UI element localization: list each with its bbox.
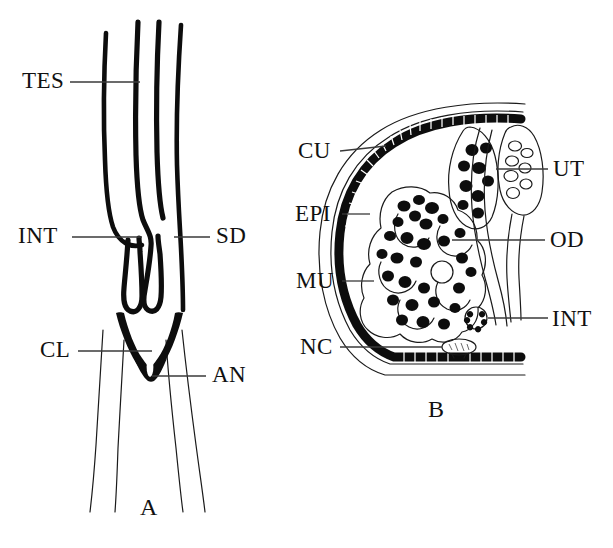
figure-root: TES INT SD CL AN xyxy=(0,0,613,548)
label-sd: SD xyxy=(216,223,246,248)
label-ut: UT xyxy=(553,156,585,181)
label-epi: EPI xyxy=(295,201,331,226)
label-cl: CL xyxy=(40,337,70,362)
panel-a-anus-opening xyxy=(147,357,154,377)
label-int-b: INT xyxy=(552,306,592,331)
anatomy-figure: TES INT SD CL AN xyxy=(0,0,613,548)
label-int-a: INT xyxy=(18,223,58,248)
label-od: OD xyxy=(550,227,584,252)
label-mu: MU xyxy=(296,268,334,293)
panel-letter-b: B xyxy=(428,396,444,422)
label-nc: NC xyxy=(300,334,333,359)
label-tes: TES xyxy=(22,68,64,93)
panel-letter-a: A xyxy=(140,494,158,520)
label-cu: CU xyxy=(298,138,331,163)
label-an: AN xyxy=(212,362,246,387)
